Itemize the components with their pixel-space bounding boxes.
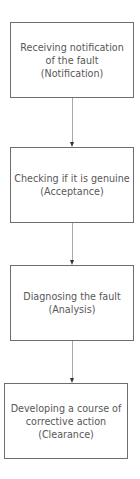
connector-line [72,341,73,378]
flow-step-text: (Clearance) [11,428,122,441]
flow-step-text: Developing a course of [11,402,122,415]
flow-step-clearance: Developing a course of corrective action… [4,383,128,459]
flow-step-text: of the fault [20,54,124,67]
flow-step-notification-label: Receiving notification of the fault (Not… [20,41,124,80]
flow-step-clearance-label: Developing a course of corrective action… [11,402,122,441]
flow-step-text: Checking if it is genuine [14,172,129,185]
flow-step-text: (Analysis) [23,303,120,316]
flow-step-text: (Notification) [20,67,124,80]
flow-step-text: corrective action [11,415,122,428]
connector-line [72,98,73,142]
flow-step-text: Diagnosing the fault [23,290,120,303]
flow-step-acceptance: Checking if it is genuine (Acceptance) [10,147,134,223]
connector-line [72,223,73,260]
flow-step-notification: Receiving notification of the fault (Not… [10,22,134,98]
flow-step-text: Receiving notification [20,41,124,54]
flow-step-text: (Acceptance) [14,185,129,198]
flow-step-acceptance-label: Checking if it is genuine (Acceptance) [14,172,129,198]
flow-step-analysis: Diagnosing the fault (Analysis) [10,265,134,341]
flow-step-analysis-label: Diagnosing the fault (Analysis) [23,290,120,316]
